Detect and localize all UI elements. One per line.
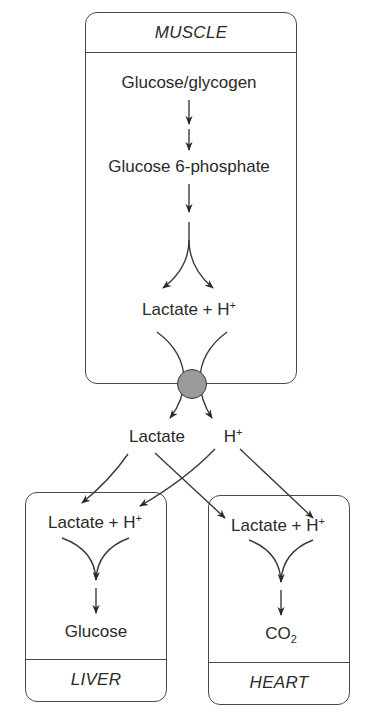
node-blood-h: H+ bbox=[224, 427, 243, 447]
node-heart-co2: CO2 bbox=[265, 624, 297, 644]
node-muscle-lactate-h: Lactate + H+ bbox=[142, 300, 236, 320]
muscle-compartment: MUSCLE bbox=[85, 12, 297, 384]
node-glucose-glycogen: Glucose/glycogen bbox=[121, 73, 256, 93]
node-liver-glucose: Glucose bbox=[65, 622, 127, 642]
muscle-label: MUSCLE bbox=[86, 23, 296, 43]
heart-footer-divider bbox=[209, 662, 349, 663]
lactate-h-transporter bbox=[177, 369, 207, 399]
heart-label: HEART bbox=[209, 673, 349, 693]
liver-label: LIVER bbox=[26, 670, 166, 690]
node-blood-lactate: Lactate bbox=[129, 427, 185, 447]
liver-footer-divider bbox=[26, 659, 166, 660]
muscle-header-divider bbox=[86, 52, 296, 53]
node-liver-lactate-h: Lactate + H+ bbox=[48, 513, 142, 533]
node-heart-lactate-h: Lactate + H+ bbox=[231, 516, 325, 536]
node-glucose-6-phosphate: Glucose 6-phosphate bbox=[108, 157, 270, 177]
